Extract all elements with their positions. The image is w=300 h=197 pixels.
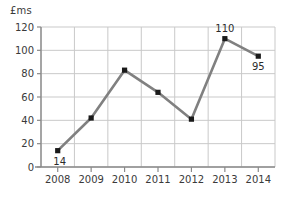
chart-plot-area: 020406080100120 200820092010201120122013… (0, 0, 300, 197)
data-point-value-label: 95 (252, 61, 265, 72)
data-point-marker (189, 117, 194, 122)
data-point-marker (256, 54, 261, 59)
y-axis-tick-labels: 020406080100120 (15, 22, 34, 173)
x-axis-tick-labels: 2008200920102011201220132014 (45, 174, 271, 185)
y-axis-tick-label: 80 (21, 68, 34, 79)
y-axis-tick-label: 0 (28, 162, 34, 173)
x-axis-tick-label: 2011 (145, 174, 170, 185)
y-axis-tick-label: 40 (21, 115, 34, 126)
x-axis-tick-label: 2014 (246, 174, 271, 185)
y-axis-tick-label: 60 (21, 92, 34, 103)
data-point-marker (89, 115, 94, 120)
data-point-marker (222, 36, 227, 41)
x-axis-tick-label: 2008 (45, 174, 70, 185)
y-axis-tick-label: 120 (15, 22, 34, 33)
x-axis-tick-label: 2010 (112, 174, 137, 185)
x-axis-ticks (58, 167, 259, 172)
line-chart: £ms 020406080100120 20082009201020112012… (0, 0, 300, 197)
x-axis-tick-label: 2013 (212, 174, 237, 185)
x-axis-tick-label: 2012 (179, 174, 204, 185)
y-axis-tick-label: 20 (21, 138, 34, 149)
data-point-value-label: 110 (215, 23, 234, 34)
data-point-marker (155, 90, 160, 95)
data-point-value-label: 14 (53, 156, 66, 167)
data-point-marker (55, 148, 60, 153)
data-point-marker (122, 68, 127, 73)
y-axis-tick-label: 100 (15, 45, 34, 56)
x-axis-tick-label: 2009 (78, 174, 103, 185)
data-point-markers (55, 36, 261, 153)
